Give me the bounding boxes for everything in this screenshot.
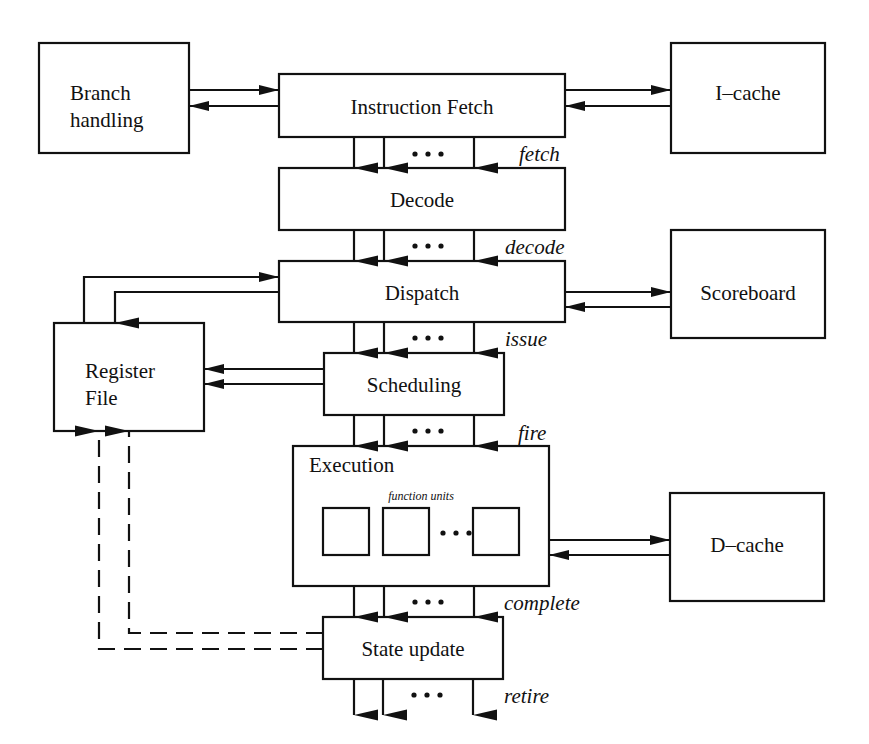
- decode-block: Decode: [279, 168, 565, 230]
- register-file-label-line1: Register: [85, 359, 155, 383]
- pipeline-diagram: Branch handling Instruction Fetch I–cach…: [0, 0, 869, 744]
- icache-block: I–cache: [671, 43, 825, 153]
- register-file-block: Register File: [54, 323, 204, 431]
- stage-label-fetch: fetch: [519, 142, 560, 166]
- function-unit-1: [323, 508, 369, 555]
- scheduling-block: Scheduling: [324, 353, 504, 415]
- fetch-to-decode-arrows: [354, 137, 474, 168]
- scoreboard-block: Scoreboard: [671, 230, 825, 338]
- state-update-label: State update: [361, 637, 464, 661]
- register-file-label-line2: File: [85, 386, 118, 410]
- function-units-label: function units: [388, 489, 454, 503]
- execution-to-state-update-arrows: [354, 586, 474, 617]
- branch-fetch-arrows: [189, 90, 279, 106]
- branch-handling-label-line2: handling: [70, 108, 144, 132]
- regfile-dispatch-arrows: [84, 277, 279, 323]
- decode-to-dispatch-arrows: [354, 230, 474, 261]
- state-update-block: State update: [323, 617, 503, 679]
- dcache-block: D–cache: [670, 493, 824, 601]
- execution-block: Execution function units: [293, 446, 549, 586]
- branch-handling-label-line1: Branch: [70, 81, 131, 105]
- branch-handling-block: Branch handling: [39, 43, 189, 153]
- execution-dcache-arrows: [549, 540, 670, 555]
- scoreboard-label: Scoreboard: [700, 281, 796, 305]
- writeback-dashed-arrows: [99, 431, 323, 649]
- decode-label: Decode: [390, 188, 454, 212]
- dispatch-block: Dispatch: [279, 261, 565, 322]
- retire-arrows: [354, 679, 473, 715]
- function-unit-n: [473, 508, 519, 555]
- execution-label: Execution: [309, 453, 395, 477]
- stage-label-decode: decode: [505, 235, 564, 259]
- stage-label-complete: complete: [504, 591, 580, 615]
- scheduling-regfile-arrows: [204, 369, 324, 384]
- stage-label-issue: issue: [505, 327, 547, 351]
- instruction-fetch-label: Instruction Fetch: [351, 95, 494, 119]
- scheduling-label: Scheduling: [367, 373, 462, 397]
- fetch-icache-arrows: [565, 90, 671, 106]
- function-unit-2: [383, 508, 429, 555]
- stage-label-fire: fire: [518, 421, 546, 445]
- dispatch-scoreboard-arrows: [565, 292, 671, 307]
- dispatch-to-scheduling-arrows: [354, 322, 474, 353]
- dispatch-label: Dispatch: [385, 281, 460, 305]
- icache-label: I–cache: [715, 81, 780, 105]
- scheduling-to-execution-arrows: [354, 415, 474, 446]
- dcache-label: D–cache: [710, 533, 783, 557]
- stage-label-retire: retire: [504, 684, 549, 708]
- instruction-fetch-block: Instruction Fetch: [279, 74, 565, 137]
